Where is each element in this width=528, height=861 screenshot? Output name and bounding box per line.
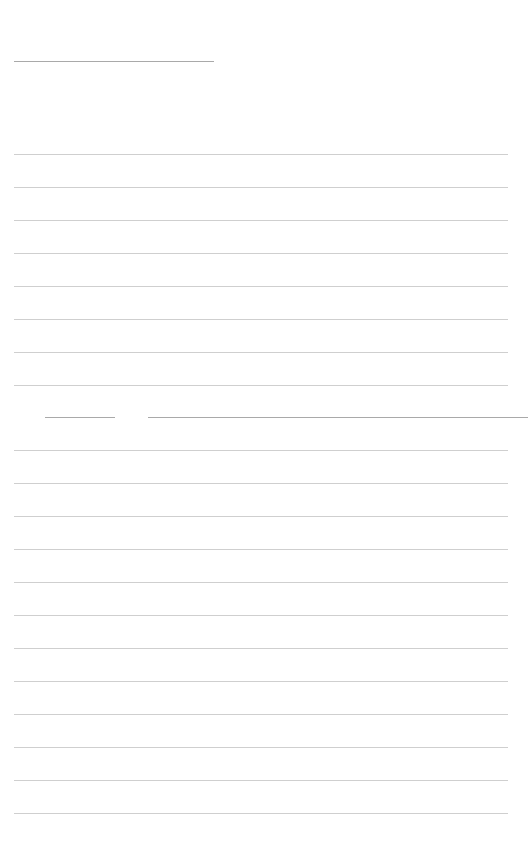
ruled-line [14,385,508,386]
ruled-line [14,253,508,254]
ruled-line [14,780,508,781]
split-rule-segment [148,417,528,418]
ruled-line [14,549,508,550]
ruled-line [14,681,508,682]
ruled-line [14,220,508,221]
ruled-line [14,352,508,353]
ruled-line [14,187,508,188]
ruled-line [14,747,508,748]
ruled-line [14,714,508,715]
ruled-line [14,483,508,484]
ruled-line [14,319,508,320]
ruled-line [14,516,508,517]
ruled-line [14,286,508,287]
header-rule [14,61,214,62]
ruled-line [14,582,508,583]
ruled-line [14,615,508,616]
ruled-line [14,813,508,814]
split-rule-segment [45,417,115,418]
ruled-line [14,648,508,649]
ruled-line [14,154,508,155]
ruled-line [14,450,508,451]
